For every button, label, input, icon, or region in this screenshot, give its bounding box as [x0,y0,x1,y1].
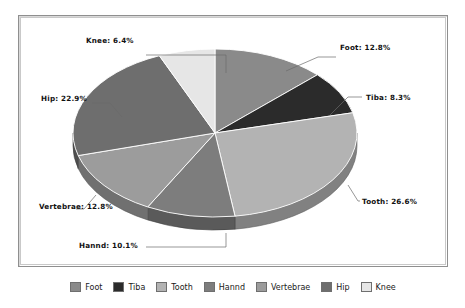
callout-hip: Hip: 22.9% [41,94,87,103]
legend-item-tooth[interactable]: Tooth [156,282,193,292]
legend-swatch-knee [361,282,372,292]
callout-vertebrae: Vertebrae: 12.8% [39,202,113,211]
legend-item-vertebrae[interactable]: Vertebrae [256,282,310,292]
legend: FootTibaToothHanndVertebraeHipKnee [18,276,448,298]
legend-swatch-tooth [156,282,167,292]
callout-knee: Knee: 6.4% [86,36,134,45]
legend-label-hip: Hip [336,283,349,292]
legend-item-hannd[interactable]: Hannd [204,282,245,292]
legend-label-tiba: Tiba [128,283,145,292]
legend-item-tiba[interactable]: Tiba [113,282,145,292]
legend-label-foot: Foot [85,283,102,292]
legend-swatch-hannd [204,282,215,292]
legend-swatch-tiba [113,282,124,292]
legend-swatch-hip [321,282,332,292]
callout-tiba: Tiba: 8.3% [366,93,411,102]
legend-swatch-vertebrae [256,282,267,292]
legend-label-hannd: Hannd [219,283,245,292]
legend-item-knee[interactable]: Knee [361,282,396,292]
legend-label-vertebrae: Vertebrae [271,283,310,292]
legend-label-tooth: Tooth [171,283,193,292]
pie-top-faces [73,49,357,217]
callout-foot: Foot: 12.8% [340,43,390,52]
pie-area [18,15,448,267]
leader-line-hannd [146,233,226,247]
legend-label-knee: Knee [376,283,396,292]
callout-hannd: Hannd: 10.1% [79,241,138,250]
callout-tooth: Tooth: 26.6% [362,197,417,206]
legend-swatch-foot [70,282,81,292]
legend-item-foot[interactable]: Foot [70,282,102,292]
leader-line-tooth [348,185,360,201]
pie-chart-screenshot: Knee: 6.4% Foot: 12.8% Tiba: 8.3% Tooth:… [0,0,465,308]
pie-svg [18,15,448,267]
legend-item-hip[interactable]: Hip [321,282,349,292]
